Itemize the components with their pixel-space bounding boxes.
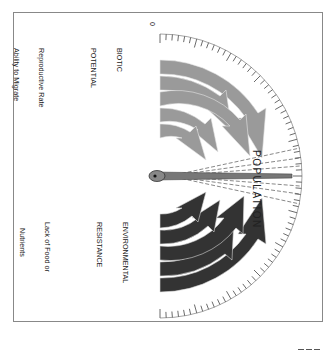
env-heading-2: RESISTANCE: [94, 222, 103, 283]
biotic-potential-block: BIOTIC POTENTIAL Reproductive Rate Abili…: [0, 48, 140, 117]
environmental-resistance-block: ENVIRONMENTAL RESISTANCE Lack of Food or…: [0, 222, 146, 283]
biotic-factor: Reproductive Rate: [37, 48, 46, 117]
scale-zero-label: 0: [149, 22, 156, 26]
biotic-heading-1: BIOTIC: [114, 48, 123, 117]
population-label: POPULATION: [251, 150, 262, 229]
env-factor: Nutrients: [17, 222, 26, 283]
env-factor: Lack of Food or: [43, 222, 52, 283]
biotic-factor: Ability to Migrate: [11, 48, 20, 117]
page-number-marks: [298, 338, 328, 344]
biotic-heading-2: POTENTIAL: [88, 48, 97, 117]
env-heading-1: ENVIRONMENTAL: [120, 222, 129, 283]
biotic-potential-arrows: [160, 60, 266, 160]
